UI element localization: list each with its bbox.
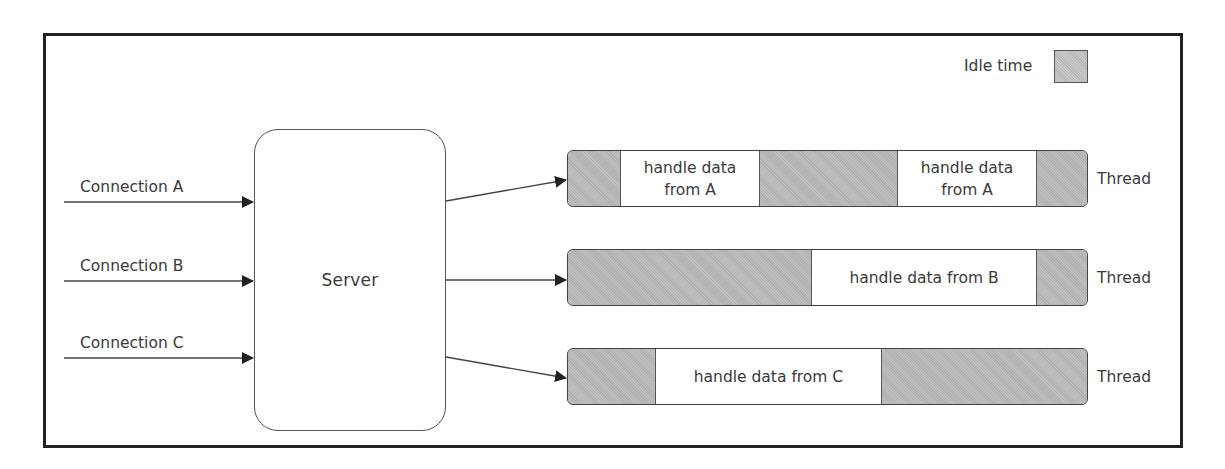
idle-segment: [568, 250, 811, 305]
thread-bar-b: handle data from B: [567, 249, 1088, 306]
idle-segment: [1036, 250, 1087, 305]
thread-b-label: Thread: [1097, 269, 1151, 287]
idle-segment: [759, 151, 897, 206]
idle-time-swatch: [1054, 50, 1088, 83]
connection-b-label: Connection B: [80, 257, 183, 275]
idle-segment: [1036, 151, 1087, 206]
idle-segment: [568, 349, 655, 404]
work-segment: handle data from A: [897, 151, 1036, 206]
thread-bar-a: handle data from A handle data from A: [567, 150, 1088, 207]
work-segment: handle data from B: [811, 250, 1036, 305]
work-segment: handle data from C: [655, 349, 881, 404]
thread-bar-c: handle data from C: [567, 348, 1088, 405]
server-label: Server: [322, 270, 379, 290]
idle-segment: [568, 151, 620, 206]
thread-a-label: Thread: [1097, 170, 1151, 188]
work-segment: handle data from A: [620, 151, 759, 206]
connection-c-label: Connection C: [80, 334, 183, 352]
legend-label: Idle time: [964, 57, 1032, 75]
server-box: Server: [254, 129, 446, 431]
connection-a-label: Connection A: [80, 178, 183, 196]
idle-segment: [881, 349, 1087, 404]
thread-c-label: Thread: [1097, 368, 1151, 386]
